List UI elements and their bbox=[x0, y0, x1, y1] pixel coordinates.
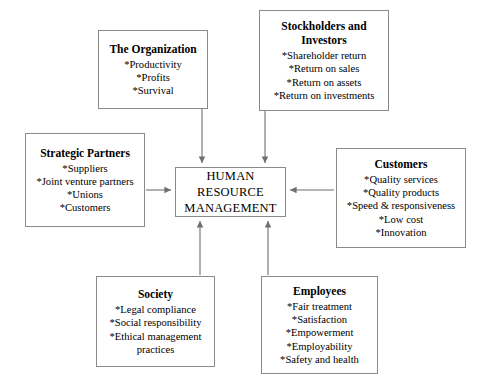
node-organization-title: The Organization bbox=[109, 42, 196, 56]
node-item: *Social responsibility bbox=[109, 316, 201, 329]
node-society: Society *Legal compliance*Social respons… bbox=[96, 276, 215, 367]
node-item: *Productivity bbox=[124, 58, 182, 71]
node-stockholders-title: Stockholders and Investors bbox=[281, 19, 366, 47]
node-item: *Employability bbox=[280, 340, 359, 353]
node-employees-items: *Fair treatment*Satisfaction*Empowerment… bbox=[280, 300, 359, 366]
node-society-items: *Legal compliance*Social responsibility*… bbox=[109, 303, 201, 356]
node-stockholders-items: *Shareholder return*Return on sales*Retu… bbox=[274, 49, 375, 102]
node-item: *Quality services bbox=[347, 173, 455, 186]
node-customers-title: Customers bbox=[374, 157, 427, 171]
node-item: *Quality products bbox=[347, 186, 455, 199]
node-customers: Customers *Quality services*Quality prod… bbox=[336, 148, 466, 248]
node-item: *Return on investments bbox=[274, 89, 375, 102]
node-stockholders-and-investors: Stockholders and Investors *Shareholder … bbox=[259, 10, 389, 111]
node-item: *Joint venture partners bbox=[36, 175, 133, 188]
node-item: *Innovation bbox=[347, 226, 455, 239]
node-customers-items: *Quality services*Quality products*Speed… bbox=[347, 173, 455, 239]
node-item: *Safety and health bbox=[280, 353, 359, 366]
node-item: *Legal compliance bbox=[109, 303, 201, 316]
node-item: *Customers bbox=[36, 201, 133, 214]
node-human-resource-management: HUMAN RESOURCE MANAGEMENT bbox=[175, 167, 286, 217]
node-item: *Survival bbox=[124, 84, 182, 97]
node-item: *Unions bbox=[36, 188, 133, 201]
node-item: *Low cost bbox=[347, 213, 455, 226]
node-strategic-partners-title: Strategic Partners bbox=[40, 146, 130, 160]
node-employees-title: Employees bbox=[293, 284, 346, 298]
node-item: *Satisfaction bbox=[280, 313, 359, 326]
node-item: *Profits bbox=[124, 71, 182, 84]
node-organization: The Organization *Productivity*Profits*S… bbox=[98, 30, 208, 109]
node-item: *Return on sales bbox=[274, 62, 375, 75]
node-item: *Empowerment bbox=[280, 326, 359, 339]
node-society-title: Society bbox=[138, 287, 173, 301]
node-center-title: HUMAN RESOURCE MANAGEMENT bbox=[184, 168, 276, 217]
node-item: *Return on assets bbox=[274, 76, 375, 89]
node-item: *Fair treatment bbox=[280, 300, 359, 313]
node-item: *Suppliers bbox=[36, 162, 133, 175]
node-strategic-partners-items: *Suppliers*Joint venture partners*Unions… bbox=[36, 162, 133, 215]
node-employees: Employees *Fair treatment*Satisfaction*E… bbox=[261, 276, 378, 374]
hrm-stakeholder-diagram: The Organization *Productivity*Profits*S… bbox=[0, 0, 480, 388]
node-item: *Shareholder return bbox=[274, 49, 375, 62]
node-item: *Speed & responsiveness bbox=[347, 199, 455, 212]
node-item: *Ethical management practices bbox=[109, 330, 201, 356]
node-organization-items: *Productivity*Profits*Survival bbox=[124, 58, 182, 97]
node-strategic-partners: Strategic Partners *Suppliers*Joint vent… bbox=[25, 133, 145, 227]
